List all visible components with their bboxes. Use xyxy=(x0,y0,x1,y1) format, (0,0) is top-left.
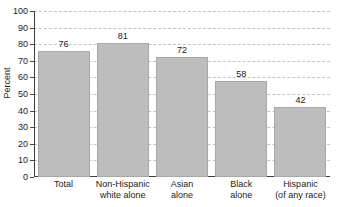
y-axis-tick-label: 60 xyxy=(18,73,28,82)
y-axis-tick-label: 30 xyxy=(18,123,28,132)
bar-value-label: 58 xyxy=(212,70,271,79)
bar[interactable] xyxy=(215,81,267,177)
x-axis-category-label: Hispanic(of any race) xyxy=(271,179,330,201)
bar-value-label: 42 xyxy=(271,96,330,105)
y-axis-tick-label: 40 xyxy=(18,106,28,115)
y-axis-label: Percent xyxy=(2,53,12,113)
y-axis-tick-label: 50 xyxy=(18,90,28,99)
y-axis-tick-label: 80 xyxy=(18,40,28,49)
x-axis-category-label: Total xyxy=(34,179,93,190)
bar[interactable] xyxy=(38,51,90,177)
y-axis-tick-label: 90 xyxy=(18,23,28,32)
bar[interactable] xyxy=(156,57,208,177)
x-axis-category-label: Asianalone xyxy=(152,179,211,201)
bar-chart: Percent 0102030405060708090100 768172584… xyxy=(0,0,338,207)
bar-value-label: 76 xyxy=(34,40,93,49)
bar-value-label: 81 xyxy=(93,32,152,41)
y-axis-tick-label: 0 xyxy=(23,173,28,182)
bar-group[interactable]: 42 xyxy=(271,11,330,177)
x-axis-category-label: Non-Hispanicwhite alone xyxy=(93,179,152,201)
bar-group[interactable]: 58 xyxy=(212,11,271,177)
x-axis-category-label: Blackalone xyxy=(212,179,271,201)
x-axis-labels: TotalNon-Hispanicwhite aloneAsianaloneBl… xyxy=(34,179,330,207)
chart-title xyxy=(36,0,326,1)
bar-value-label: 72 xyxy=(152,46,211,55)
bar[interactable] xyxy=(274,107,326,177)
y-axis-tick-label: 20 xyxy=(18,139,28,148)
y-axis-tick-label: 70 xyxy=(18,56,28,65)
bar-group[interactable]: 81 xyxy=(93,11,152,177)
plot-area: 0102030405060708090100 7681725842 xyxy=(34,11,330,177)
y-axis-tick-label: 100 xyxy=(13,7,28,16)
bar-group[interactable]: 72 xyxy=(152,11,211,177)
bar[interactable] xyxy=(97,43,149,177)
bar-group[interactable]: 76 xyxy=(34,11,93,177)
bars-layer: 7681725842 xyxy=(34,11,330,177)
y-axis-tick xyxy=(30,177,34,178)
y-axis-tick-label: 10 xyxy=(18,156,28,165)
